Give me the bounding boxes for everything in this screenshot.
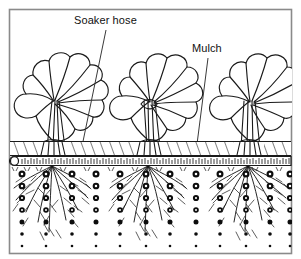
garden-cross-section-illustration: Soaker hose Mulch bbox=[0, 0, 301, 259]
figure-root: Soaker hose Mulch bbox=[0, 0, 301, 259]
label-mulch: Mulch bbox=[192, 42, 222, 54]
mulch-layer bbox=[10, 141, 291, 156]
label-soaker-hose: Soaker hose bbox=[74, 14, 137, 26]
soaker-hose-tube bbox=[10, 157, 292, 166]
